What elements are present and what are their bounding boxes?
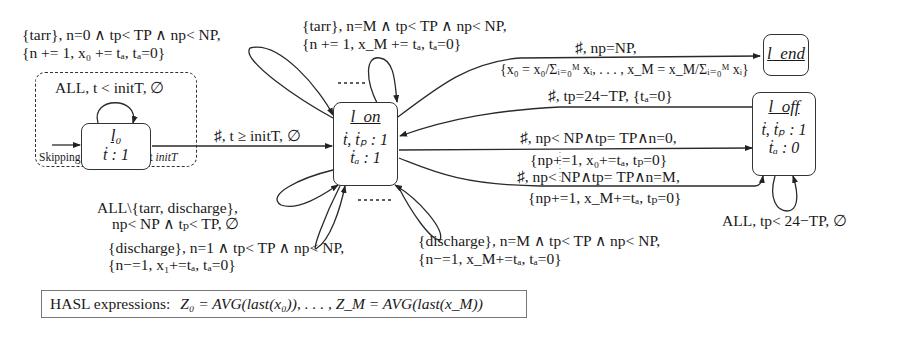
lon-loop-tarr-nM [368,58,397,105]
lon-loop-all-except [277,170,338,206]
label-lon-lend-1: ♯, np=NP, [575,40,637,56]
state-l0-name: l₀ [82,126,150,146]
state-lon[interactable]: l_on ṫ, ṫₚ : 1 ṫₐ : 1 [333,102,398,186]
state-l0[interactable]: l₀ ṫ : 1 [81,123,151,170]
loff-self-loop [773,176,797,211]
label-loff-lon: ♯, tp=24−TP, {tₐ=0} [548,88,673,104]
label-tarr-nM-1: {tarr}, n=M ∧ tp< TP ∧ np< NP, [302,18,507,34]
label-discharge-n1-1: {discharge}, n=1 ∧ tp< TP ∧ np< NP, [108,240,344,256]
hasl-expressions-box: HASL expressions: Z₀ = AVG(last(x₀)), . … [41,290,527,318]
label-discharge-nM-2: {n−=1, x_M+=tₐ, tₐ=0} [418,251,562,267]
caption-italic: initT [156,151,178,163]
label-lon-loff-n0-2: {np+=1, x₀+=tₐ, tₚ=0} [530,152,667,168]
l0-self-loop-label: ALL, t < initT, ∅ [55,80,164,96]
label-tarr-nM-2: {n += 1, x_M += tₐ, tₐ=0} [302,36,461,52]
label-lon-loff-nM-2: {np+=1, x_M+=tₐ, tₚ=0} [528,190,681,206]
state-l0-flow: ṫ : 1 [82,146,150,164]
label-lon-all-2: np< NP ∧ tₚ< TP, ∅ [112,216,239,232]
hasl-label: HASL expressions: [50,295,170,312]
label-lon-loff-nM-1: ♯, np< NP∧tp= TP∧n=M, [517,169,680,185]
state-lend[interactable]: l_end [763,34,809,76]
label-tarr-n0-1: {tarr}, n=0 ∧ tp< TP ∧ np< NP, [22,27,221,43]
label-loff-self: ALL, tp< 24−TP, ∅ [722,213,847,229]
label-lon-loff-n0-1: ♯, np< NP∧tp= TP∧n=0, [520,130,677,146]
state-lon-flow1: ṫ, ṫₚ : 1 [334,131,397,149]
state-loff[interactable]: l_off ṫ, ṫₚ : 1 ṫₐ : 0 [752,92,816,176]
hasl-expression: Z₀ = AVG(last(x₀)), . . . , Z_M = AVG(la… [180,295,483,312]
state-loff-flow1: ṫ, ṫₚ : 1 [753,121,815,139]
state-lon-name: l_on [334,107,397,127]
state-loff-flow2: ṫₐ : 0 [753,139,815,157]
state-loff-name: l_off [753,97,815,117]
state-lon-flow2: ṫₐ : 1 [334,149,397,167]
lon-loop-tarr-n0 [250,47,333,115]
edge-lon-loff-n0 [399,148,752,150]
label-discharge-nM-1: {discharge}, n=M ∧ tp< TP ∧ np< NP, [418,233,660,249]
label-lon-all-1: ALL\{tarr, discharge}, [97,200,238,216]
label-l0-lon: ♯, t ≥ initT, ∅ [214,128,301,144]
label-tarr-n0-2: {n += 1, x₀ += tₐ, tₐ=0} [22,45,165,61]
label-discharge-n1-2: {n−=1, x₁+=tₐ, tₐ=0} [108,257,236,273]
label-lon-lend-2: {x₀ = x₀/Σᵢ₌₀ᴹ xᵢ, . . . , x_M = x_M/Σᵢ₌… [500,62,749,78]
state-lend-name: l_end [767,44,805,63]
